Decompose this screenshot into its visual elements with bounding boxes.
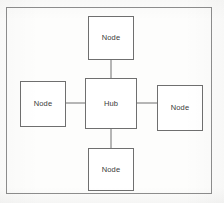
node-box-hub[interactable]: Hub bbox=[85, 78, 137, 129]
node-box-left[interactable]: Node bbox=[20, 81, 66, 127]
node-box-right[interactable]: Node bbox=[157, 85, 203, 131]
node-label-bottom: Node bbox=[102, 166, 121, 174]
node-label-right: Node bbox=[171, 104, 190, 112]
node-box-top[interactable]: Node bbox=[88, 16, 134, 60]
node-box-bottom[interactable]: Node bbox=[88, 148, 134, 191]
node-label-hub: Hub bbox=[104, 100, 118, 108]
diagram-canvas: Node Node Hub Node Node bbox=[0, 0, 224, 203]
node-label-left: Node bbox=[34, 100, 53, 108]
node-label-top: Node bbox=[102, 34, 121, 42]
